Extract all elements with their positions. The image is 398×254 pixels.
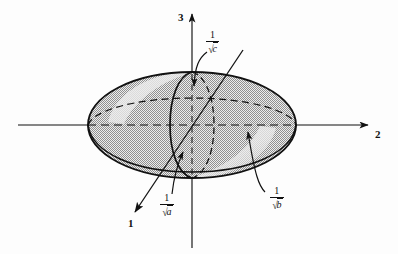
radical-b-argument: b (277, 198, 283, 211)
fraction-b-denominator: √b (270, 199, 284, 212)
fraction-c-numerator: 1 (206, 30, 219, 41)
radical-b: √b (271, 199, 283, 212)
intercept-a-label: 1 √a (160, 193, 174, 218)
fraction-c: 1 √c (206, 30, 219, 55)
fraction-a: 1 √a (160, 193, 174, 218)
fraction-b-numerator: 1 (270, 186, 284, 197)
radical-c: √c (207, 43, 218, 56)
ellipsoid-diagram-svg (0, 0, 398, 254)
axis-2-label: 2 (375, 129, 381, 140)
fraction-a-numerator: 1 (160, 193, 174, 204)
radical-a-argument: a (167, 205, 173, 218)
figure-canvas: 3 2 1 1 √c 1 √a 1 √b (0, 0, 398, 254)
fraction-a-denominator: √a (160, 206, 174, 219)
intercept-b-label: 1 √b (270, 186, 284, 211)
fraction-c-denominator: √c (206, 43, 219, 56)
radical-a: √a (161, 206, 173, 219)
fraction-b: 1 √b (270, 186, 284, 211)
radical-c-argument: c (213, 42, 218, 55)
axis-3-label: 3 (178, 12, 184, 23)
intercept-c-label: 1 √c (206, 30, 219, 55)
axis-1-label: 1 (128, 218, 134, 229)
